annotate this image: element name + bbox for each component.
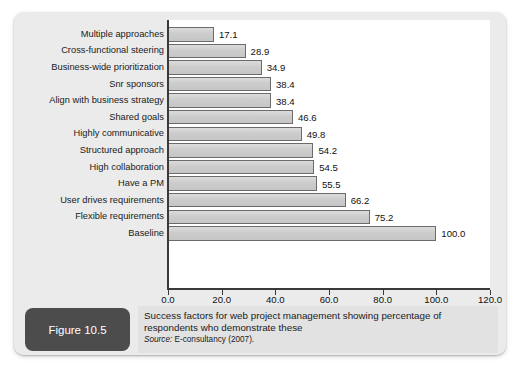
bar [168,127,302,142]
bar-category-label: Highly communicative [14,128,168,139]
bar-category-label: Snr sponsors [14,79,168,90]
bar-row: Shared goals46.6 [14,109,506,126]
bar-category-label: Cross-functional steering [14,45,168,56]
bar-value-label: 38.4 [271,79,295,90]
bar-category-label: Flexible requirements [14,211,168,222]
bar-track: 46.6 [168,110,506,125]
bar-row: User drives requirements66.2 [14,192,506,209]
figure-number-label: Figure 10.5 [48,324,106,336]
bar-category-label: Shared goals [14,112,168,123]
caption-text: Success factors for web project manageme… [144,310,492,334]
figure-number-badge: Figure 10.5 [25,308,130,351]
bar-value-label: 100.0 [436,228,465,239]
y-axis-line [167,20,169,290]
bar-track: 34.9 [168,60,506,75]
bar-row: Snr sponsors38.4 [14,76,506,93]
bar-track: 66.2 [168,193,506,208]
bar-value-label: 38.4 [271,95,295,106]
bar [168,77,271,92]
bar-row: Highly communicative49.8 [14,126,506,143]
bar-value-label: 49.8 [302,128,326,139]
bar [168,60,262,75]
bar [168,193,346,208]
bar-value-label: 17.1 [214,29,238,40]
bar-row: Multiple approaches17.1 [14,26,506,43]
bar-track: 28.9 [168,44,506,59]
bar [168,93,271,108]
caption-source-prefix: Source: [144,335,172,344]
bar-category-label: High collaboration [14,162,168,173]
bar-value-label: 75.2 [370,211,394,222]
bar-category-label: Align with business strategy [14,95,168,106]
bar-value-label: 46.6 [293,112,317,123]
bar [168,143,313,158]
bar-value-label: 66.2 [346,195,370,206]
bar-rows: Multiple approaches17.1Cross-functional … [14,26,506,242]
bar-row: Structured approach54.2 [14,142,506,159]
bar [168,226,436,241]
bar-track: 54.5 [168,160,506,175]
bar-value-label: 34.9 [262,62,286,73]
bar [168,210,370,225]
bar-track: 17.1 [168,27,506,42]
figure-caption-area: Figure 10.5 Success factors for web proj… [14,304,506,355]
bar [168,176,317,191]
bar-value-label: 54.5 [314,162,338,173]
bar-row: Have a PM55.5 [14,175,506,192]
bar [168,110,293,125]
caption-text-box: Success factors for web project manageme… [138,306,498,353]
caption-source: Source: E-consultancy (2007). [144,335,492,344]
bar-value-label: 28.9 [246,45,270,56]
bar-row: Align with business strategy38.4 [14,92,506,109]
bar-track: 54.2 [168,143,506,158]
bar-track: 100.0 [168,226,506,241]
bar-category-label: User drives requirements [14,195,168,206]
bar [168,160,314,175]
bar-track: 55.5 [168,176,506,191]
bar-category-label: Have a PM [14,178,168,189]
bar-row: Flexible requirements75.2 [14,209,506,226]
bar-category-label: Multiple approaches [14,29,168,40]
bar-track: 38.4 [168,77,506,92]
bar-category-label: Baseline [14,228,168,239]
bar-chart: Multiple approaches17.1Cross-functional … [14,12,506,304]
figure-panel: Multiple approaches17.1Cross-functional … [14,12,506,355]
bar [168,27,214,42]
caption-source-body: E-consultancy (2007). [172,335,254,344]
bar-track: 49.8 [168,127,506,142]
bar-value-label: 54.2 [313,145,337,156]
bar [168,44,246,59]
bar-row: Business-wide prioritization34.9 [14,59,506,76]
bar-track: 75.2 [168,210,506,225]
bar-row: Baseline100.0 [14,225,506,242]
bar-value-label: 55.5 [317,178,341,189]
bar-track: 38.4 [168,93,506,108]
bar-row: High collaboration54.5 [14,159,506,176]
bar-category-label: Structured approach [14,145,168,156]
bar-row: Cross-functional steering28.9 [14,43,506,60]
bar-category-label: Business-wide prioritization [14,62,168,73]
